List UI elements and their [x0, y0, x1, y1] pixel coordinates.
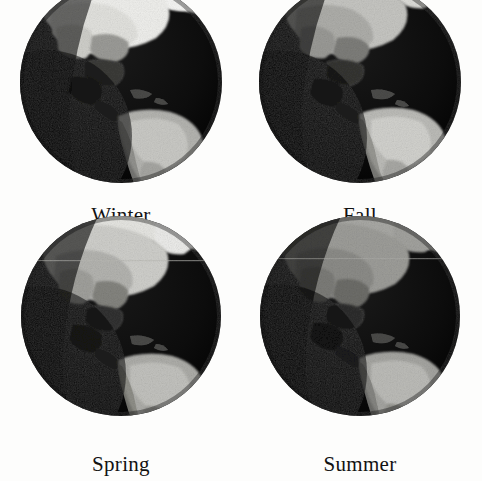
earth-globe-icon	[6, 214, 236, 424]
earth-globe-icon	[245, 214, 475, 424]
earth-globe-icon	[245, 0, 475, 198]
scanline-artifact	[6, 260, 236, 261]
globe-fall	[245, 0, 475, 198]
globe-winter	[6, 0, 236, 198]
globe-spring	[6, 214, 236, 424]
label-spring: Spring	[6, 454, 236, 475]
label-summer: Summer	[245, 454, 475, 475]
seasonal-earth-figure: Winter	[0, 0, 482, 481]
scanline-artifact	[245, 258, 475, 259]
earth-globe-icon	[6, 0, 236, 198]
globe-summer	[245, 214, 475, 424]
